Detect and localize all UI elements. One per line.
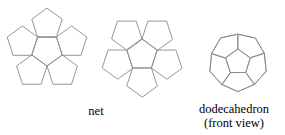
- dodecahedron-side-face: [246, 53, 267, 84]
- pentagon-face-petal: [142, 21, 172, 50]
- caption-net-text: net: [88, 104, 103, 118]
- dodecahedron-side-face: [210, 53, 231, 84]
- caption-dodecahedron-line1: dodecahedron: [183, 102, 285, 116]
- pentagon-face-petal: [32, 8, 62, 37]
- dodecahedron-front-view: [210, 34, 266, 91]
- pentagon-face-petal: [56, 26, 86, 55]
- dodecahedron-figure: net dodecahedron (front view): [0, 0, 285, 135]
- pentagon-face-petal: [17, 55, 47, 84]
- dodecahedron-side-face: [212, 34, 238, 58]
- pentagon-face-petal: [112, 21, 142, 50]
- pentagon-face-petal: [7, 26, 37, 55]
- dodecahedron-side-face: [222, 73, 255, 92]
- caption-dodecahedron: dodecahedron (front view): [183, 102, 285, 130]
- caption-dodecahedron-line2: (front view): [183, 116, 285, 130]
- net-right-flower: [102, 21, 182, 97]
- pentagon-face-petal: [102, 50, 132, 79]
- pentagon-face-petal: [47, 55, 77, 84]
- pentagon-face-petal: [127, 68, 157, 97]
- pentagon-face-petal: [151, 50, 181, 79]
- caption-net: net: [56, 104, 136, 118]
- net-left-flower: [7, 8, 87, 84]
